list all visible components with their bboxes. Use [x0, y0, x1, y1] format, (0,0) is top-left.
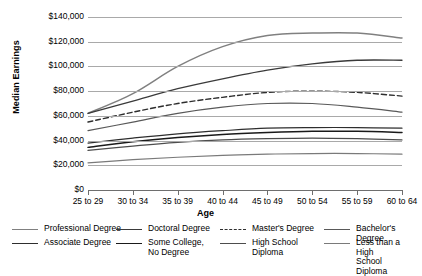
y-axis-tick-labels: $0$20,000$40,000$60,000$80,000$100,000$1… [0, 17, 84, 190]
y-tick-label: $80,000 [4, 86, 84, 95]
series-line-3 [88, 103, 402, 131]
series-lines [88, 17, 402, 190]
chart-area: Median Earnings $0$20,000$40,000$60,000$… [0, 0, 411, 215]
y-tick-label: $20,000 [4, 160, 84, 169]
legend-item[interactable]: Some College, No Degree [116, 238, 204, 257]
x-tick [357, 190, 358, 195]
x-axis-title: Age [0, 208, 411, 218]
x-tick [402, 190, 403, 195]
legend-label: Some College, No Degree [148, 238, 204, 257]
gridline [88, 66, 402, 67]
series-line-7 [88, 153, 402, 162]
legend-swatch-icon [220, 239, 246, 248]
legend-item[interactable]: Master's Degree [220, 224, 314, 234]
legend-swatch-icon [116, 239, 142, 248]
y-tick-label: $100,000 [4, 61, 84, 70]
legend-item[interactable]: Associate Degree [12, 238, 111, 248]
gridline [88, 42, 402, 43]
legend-item[interactable]: Professional Degree [12, 224, 121, 234]
legend-item[interactable]: Doctoral Degree [116, 224, 210, 234]
y-tick-label: $0 [4, 185, 84, 194]
legend-swatch-icon [220, 225, 246, 234]
legend-label: Less than a High School Diploma [356, 238, 402, 276]
y-tick-label: $40,000 [4, 136, 84, 145]
series-line-0 [88, 33, 402, 114]
gridline [88, 17, 402, 18]
legend-label: Associate Degree [44, 238, 111, 248]
y-tick-label: $140,000 [4, 12, 84, 21]
y-tick-label: $120,000 [4, 37, 84, 46]
legend-item[interactable]: Less than a High School Diploma [324, 238, 402, 276]
gridline [88, 165, 402, 166]
legend-label: Master's Degree [252, 224, 314, 234]
legend-label: High School Diploma [252, 238, 298, 257]
legend-label: Professional Degree [44, 224, 121, 234]
chart-legend: Professional DegreeDoctoral DegreeMaster… [12, 224, 402, 264]
legend-swatch-icon [116, 225, 142, 234]
gridline [88, 141, 402, 142]
legend-label: Doctoral Degree [148, 224, 210, 234]
plot-area [88, 17, 402, 190]
legend-swatch-icon [324, 225, 350, 234]
legend-swatch-icon [12, 239, 38, 248]
x-tick [312, 190, 313, 195]
x-tick [133, 190, 134, 195]
x-tick [88, 190, 89, 195]
x-tick-label: 60 to 64 [371, 196, 422, 206]
y-tick-label: $60,000 [4, 111, 84, 120]
x-tick [267, 190, 268, 195]
x-axis-tick-labels: 25 to 2930 to 3435 to 3940 to 4445 to 49… [60, 196, 422, 208]
legend-item[interactable]: High School Diploma [220, 238, 298, 257]
legend-swatch-icon [12, 225, 38, 234]
x-tick [178, 190, 179, 195]
x-tick [223, 190, 224, 195]
gridline [88, 91, 402, 92]
gridline [88, 116, 402, 117]
legend-swatch-icon [324, 239, 350, 248]
